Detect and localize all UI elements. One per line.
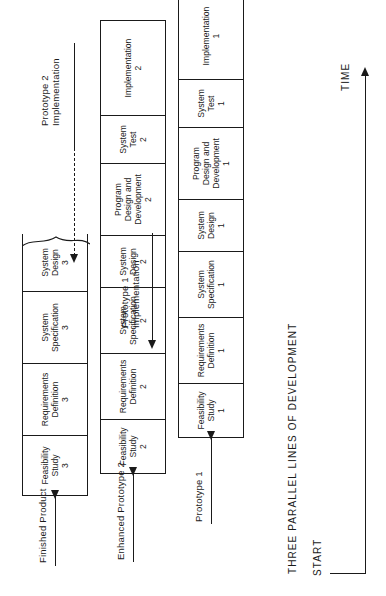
stage-label-line1: Requirements (40, 373, 50, 427)
stage-label-line1: Implementation (201, 7, 211, 66)
stage-box[interactable]: System Specification 3 (22, 292, 88, 364)
stage-box[interactable]: Feasibility Study 2 (100, 420, 166, 474)
stage-number: 1 (216, 408, 226, 413)
stage-number: 2 (143, 197, 153, 202)
stage-label-line3: Development (133, 174, 143, 225)
prototype-2-implementation-label: Prototype 2 Implementation (40, 58, 62, 126)
development-line-3: Feasibility Study 3 Requirements Definit… (22, 234, 88, 496)
stage-label-line1: Feasibility (40, 446, 50, 484)
finished-product-arrowhead (51, 490, 59, 499)
stage-number: 3 (60, 463, 70, 468)
stage-label-line2: Test (206, 96, 216, 112)
stage-box[interactable]: Implementation 2 (100, 20, 166, 116)
stage-number: 1 (211, 34, 221, 39)
stage-label-line1: Feasibility (196, 391, 206, 429)
finished-product-line (55, 497, 56, 566)
stage-label-line2: Specification (206, 260, 216, 309)
prototype-1-implementation-line2: Implementation (131, 260, 142, 328)
stage-box[interactable]: Requirements Definition 2 (100, 354, 166, 420)
stage-label-line2: Design (50, 249, 60, 276)
time-axis-arrowhead (361, 67, 369, 76)
prototype-1-implementation-label: Prototype 1 Implementation (120, 260, 142, 328)
stage-label-line1: System (118, 125, 128, 154)
stage-number: 1 (216, 348, 226, 353)
enhanced-prototype-2-line (133, 474, 134, 562)
stage-number: 2 (138, 137, 148, 142)
prototype-1-arrowhead (207, 431, 215, 440)
time-axis-line (365, 74, 366, 574)
stage-number: 1 (216, 101, 226, 106)
stage-box[interactable]: System Test 2 (100, 116, 166, 164)
stage-box[interactable]: Implementation 1 (178, 0, 244, 80)
enhanced-prototype-2-arrowhead (129, 467, 137, 476)
stage-label-line1: Requirements (196, 324, 206, 378)
stage-box[interactable]: Requirements Definition 1 (178, 318, 244, 384)
stage-number: 3 (60, 260, 70, 265)
stage-label-line2: Test (128, 132, 138, 148)
stage-box[interactable]: System Specification 1 (178, 252, 244, 318)
stage-box[interactable]: Feasibility Study 1 (178, 384, 244, 438)
stage-number: 2 (133, 66, 143, 71)
stage-number: 1 (216, 223, 226, 228)
stage-label-line2: Study (206, 400, 216, 422)
stage-number: 1 (221, 161, 231, 166)
stage-box[interactable]: System Design 1 (178, 200, 244, 252)
stage-label-line1: Feasibility (118, 427, 128, 465)
stage-label-line1: Program (113, 183, 123, 216)
stage-box[interactable]: Requirements Definition 3 (22, 364, 88, 436)
prototype-1-label: Prototype 1 (194, 471, 205, 522)
stage-label-line1: System (196, 270, 206, 299)
stage-label-line2: Definition (206, 333, 216, 369)
prototype-2-implementation-line2: Implementation (51, 58, 62, 126)
stage-number: 2 (138, 444, 148, 449)
stage-label-line1: System (196, 211, 206, 240)
prototype-1-line (211, 438, 212, 524)
prototype-2-implementation-dashed-line (74, 148, 75, 256)
stage-label-line1: System (196, 89, 206, 118)
stage-box[interactable]: System Design 3 (22, 234, 88, 292)
stage-number: 3 (60, 397, 70, 402)
prototype-1-implementation-line (152, 233, 153, 341)
prototype-1-implementation-arrowhead (148, 340, 156, 349)
prototype-2-implementation-line (74, 43, 75, 149)
stage-label-line2: Design and (123, 178, 133, 221)
stage-number: 2 (138, 384, 148, 389)
stage-label-line2: Study (50, 455, 60, 477)
stage-label-line2: Definition (128, 369, 138, 405)
stage-label-line2: Design and (201, 142, 211, 185)
development-line-1: Feasibility Study 1 Requirements Definit… (178, 0, 244, 438)
start-label: START (312, 539, 324, 576)
stage-label-line1: System (40, 313, 50, 342)
start-tick (330, 573, 366, 574)
diagram-canvas: START TIME THREE PARALLEL LINES OF DEVEL… (0, 0, 386, 596)
stage-box[interactable]: Feasibility Study 3 (22, 436, 88, 496)
stage-number: 1 (216, 282, 226, 287)
stage-label-line2: Study (128, 436, 138, 458)
stage-label-line1: Implementation (123, 39, 133, 98)
diagram-title: THREE PARALLEL LINES OF DEVELOPMENT (287, 323, 299, 574)
development-line-2: Feasibility Study 2 Requirements Definit… (100, 20, 166, 474)
stage-number: 3 (60, 325, 70, 330)
stage-label-line1: System (40, 248, 50, 277)
stage-label-line2: Design (206, 212, 216, 239)
time-label: TIME (340, 63, 352, 91)
torn-edge-icon (22, 233, 90, 247)
stage-label-line2: Definition (50, 382, 60, 418)
stage-label-line3: Development (211, 138, 221, 189)
stage-box[interactable]: System Test 1 (178, 80, 244, 128)
stage-label-line1: Requirements (118, 360, 128, 414)
stage-box[interactable]: Program Design and Development 1 (178, 128, 244, 200)
stage-box[interactable]: Program Design and Development 2 (100, 164, 166, 236)
prototype-2-implementation-arrowhead (70, 254, 78, 263)
enhanced-prototype-2-label: Enhanced Prototype 2 (116, 462, 127, 560)
finished-product-label: Finished Product (38, 489, 49, 564)
stage-label-line2: Specification (50, 303, 60, 352)
stage-label-line1: Program (191, 147, 201, 180)
